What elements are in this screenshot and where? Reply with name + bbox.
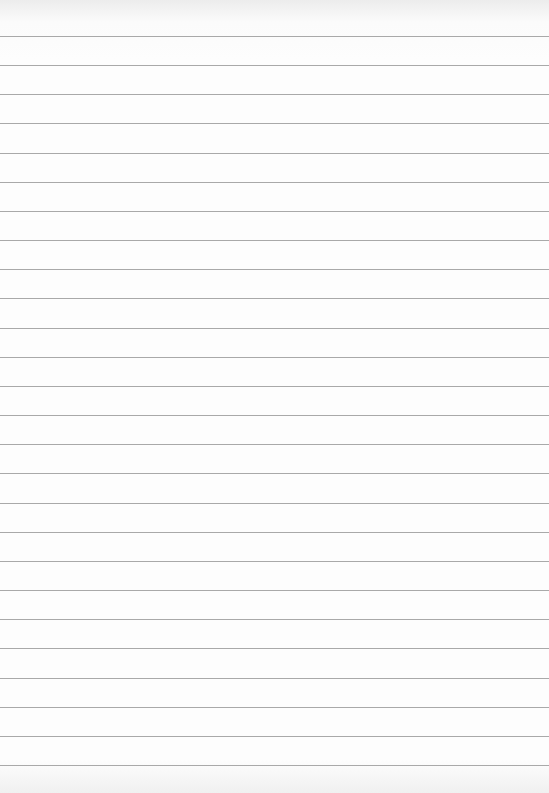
ruled-line (0, 211, 549, 212)
ruled-line (0, 707, 549, 708)
ruled-line (0, 123, 549, 124)
ruled-line (0, 765, 549, 766)
lined-paper-page (0, 0, 549, 793)
ruled-line (0, 561, 549, 562)
ruled-line (0, 328, 549, 329)
ruled-line (0, 65, 549, 66)
ruled-line (0, 444, 549, 445)
ruled-line (0, 36, 549, 37)
ruled-line (0, 386, 549, 387)
ruled-line (0, 298, 549, 299)
ruled-line (0, 678, 549, 679)
ruled-line (0, 269, 549, 270)
ruled-line (0, 415, 549, 416)
ruled-line (0, 94, 549, 95)
ruled-line (0, 532, 549, 533)
ruled-line (0, 736, 549, 737)
ruled-line (0, 648, 549, 649)
ruled-line (0, 503, 549, 504)
ruled-line (0, 240, 549, 241)
ruled-line (0, 153, 549, 154)
ruled-line (0, 357, 549, 358)
ruled-line (0, 619, 549, 620)
ruled-line (0, 182, 549, 183)
ruled-line (0, 473, 549, 474)
ruled-line (0, 590, 549, 591)
